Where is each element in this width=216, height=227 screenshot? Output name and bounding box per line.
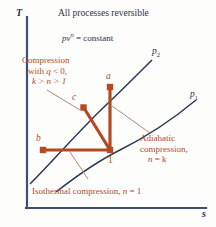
equation-base: pv (62, 33, 71, 43)
state-point-marker-group (40, 84, 113, 153)
adiabatic-compression-note: Adiabatic compression, n = k (140, 133, 188, 165)
polytropic-note-line-1: Compression (22, 55, 70, 66)
leader-line-adiabatic (112, 106, 150, 133)
polytropic-note-line-2: with q < 0, (22, 66, 70, 77)
state-point-label-c: c (72, 92, 76, 103)
pressure-label-p2: p2 (152, 46, 160, 59)
state-point-label-1: 1 (108, 155, 113, 166)
polytropic-note-line-2-post: < 0, (51, 66, 67, 76)
polytropic-equation: pvn = constant (62, 31, 113, 44)
adiabatic-note-line-3: n = k (140, 154, 188, 165)
pressure-label-p1: p1 (190, 89, 198, 102)
isothermal-compression-note: Isothermal compression, n = 1 (32, 186, 141, 197)
state-marker-1 (107, 147, 113, 153)
process-path-group (43, 87, 110, 150)
isothermal-note-post: = 1 (127, 186, 141, 196)
isothermal-note-pre: Isothermal compression, (32, 186, 123, 196)
adiabatic-note-line-1: Adiabatic (140, 133, 188, 144)
y-axis-label: T (16, 7, 22, 19)
x-axis-label: s (202, 208, 206, 220)
state-marker-a (107, 84, 113, 90)
state-marker-b (40, 147, 46, 153)
axis-group (26, 17, 206, 208)
figure-title: All processes reversible (58, 8, 149, 19)
state-point-label-a: a (106, 71, 111, 82)
polytropic-note-line-3: k > n > 1 (22, 76, 70, 87)
adiabatic-note-line-2: compression, (140, 144, 188, 155)
leader-line-group (47, 90, 150, 179)
pressure-label-p1-sub: 1 (195, 94, 198, 101)
state-point-label-b: b (36, 133, 41, 144)
pressure-label-p2-sub: 2 (157, 51, 160, 58)
polytropic-note-line-2-pre: with (28, 66, 46, 76)
equation-rhs: = constant (76, 33, 113, 43)
equation-exponent: n (71, 31, 74, 38)
polytropic-compression-note: Compression with q < 0, k > n > 1 (22, 55, 70, 87)
adiabatic-note-line-3-post: = k (153, 154, 167, 164)
state-marker-c (80, 104, 86, 110)
thermodynamics-ts-diagram: T s All processes reversible pvn = const… (0, 0, 216, 227)
